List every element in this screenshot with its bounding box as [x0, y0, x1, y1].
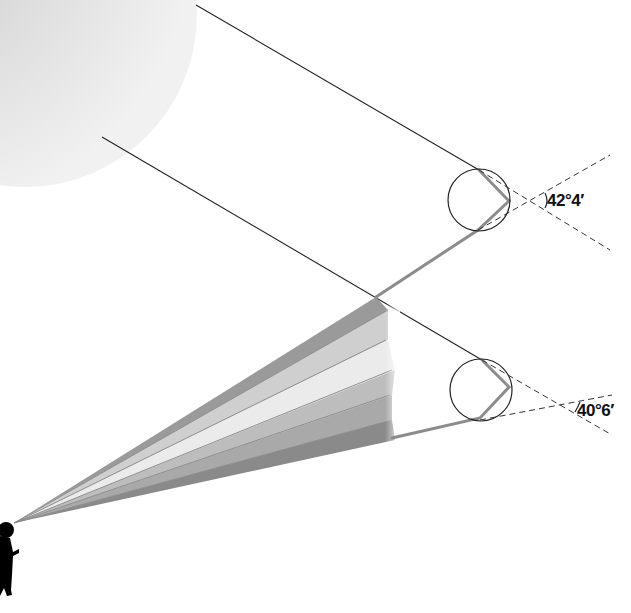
lower-dash-1 [482, 360, 612, 435]
lower-angle-label: 40°6′ [577, 401, 614, 421]
incoming-ray-lower [102, 137, 482, 360]
sun [0, 0, 197, 187]
upper-drop-ray-path [376, 170, 509, 297]
lower-raindrop [450, 359, 512, 421]
upper-angle-label: 42°4′ [547, 191, 584, 211]
upper-dash-2 [478, 155, 610, 230]
upper-raindrop [448, 169, 510, 231]
angle-construction-lines [478, 155, 612, 435]
lower-drop-ray-path [392, 360, 509, 438]
angle-arcs [545, 193, 580, 412]
rainbow-diagram [0, 0, 631, 613]
rainbow-bands [14, 290, 400, 523]
observer-silhouette [0, 522, 19, 596]
incoming-ray-upper [196, 5, 479, 170]
